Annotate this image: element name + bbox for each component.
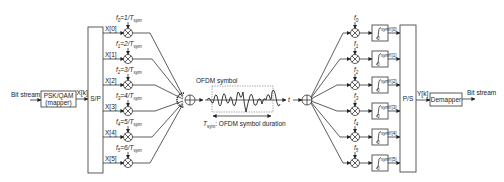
rx-split-icon [302,95,312,105]
rx-output-label: Y[3] [389,105,397,110]
duration-label: Tsym: OFDM symbol duration [203,120,286,129]
integrator-block: sym 0 [372,77,390,93]
multiplier-icon [351,107,360,116]
demapper-label: Demapper [431,96,462,104]
time-axis-label: t [288,96,291,103]
integrator-block: sym 0 [372,129,390,145]
svg-text:f0: f0 [354,14,359,23]
rx-output-label: Y[0] [389,27,397,32]
integrator-block: sym 0 [372,155,390,171]
tx-row-3: X[3] f3=4/Tsym [103,92,183,116]
ps-output-label: Y[k] [417,90,428,98]
svg-text:f1: f1 [354,40,359,49]
svg-text:f5=6/Tsym: f5=6/Tsym [116,144,142,153]
multiplier-icon [124,81,133,90]
svg-text:f1=2/Tsym: f1=2/Tsym [116,40,142,49]
ps-label: P/S [403,95,414,102]
svg-text:f4=5/Tsym: f4=5/Tsym [116,118,142,127]
mapper-output-label: X[k] [77,89,88,97]
mapper-block: PSK/QAM (mapper) [41,91,76,107]
mapper-label-2: (mapper) [45,99,71,107]
rx-output-label: Y[1] [389,53,397,58]
rx-output-label: Y[4] [389,131,397,136]
rx-row-3: f3 sym 0 Y[3] [311,92,400,119]
svg-text:f2: f2 [354,66,359,75]
multiplier-icon [124,107,133,116]
svg-text:f5: f5 [354,144,359,153]
ofdm-symbol-label: OFDM symbol [196,77,238,85]
svg-text:f0=1/Tsym: f0=1/Tsym [116,14,142,23]
tx-input-label: X[0] [105,25,117,33]
multiplier-icon [124,55,133,64]
demapper-block: Demapper [430,93,462,106]
sp-block: S/P [88,27,103,173]
tx-summation-icon [177,93,195,107]
multiplier-icon [351,55,360,64]
multiplier-icon [351,159,360,168]
tx-input-label: X[5] [105,155,117,163]
tx-row-1: X[1] f1=2/Tsym [103,40,183,98]
sp-label: S/P [90,95,100,102]
multiplier-icon [351,81,360,90]
input-bitstream-label: Bit stream [11,91,40,98]
output-bitstream-label: Bit stream [467,89,496,96]
svg-text:f3=4/Tsym: f3=4/Tsym [116,92,142,101]
rx-output-label: Y[2] [389,79,397,84]
multiplier-icon [124,133,133,142]
integrator-block: sym 0 [372,103,390,119]
tx-input-label: X[4] [105,129,117,137]
ofdm-block-diagram: Bit stream PSK/QAM (mapper) X[k] S/P X[0… [0,0,504,182]
integrator-block: sym 0 [372,25,390,41]
tx-input-label: X[3] [105,103,117,111]
multiplier-icon [351,133,360,142]
ps-block: P/S [400,25,416,172]
ofdm-waveform [207,90,280,112]
svg-text:f4: f4 [354,118,359,127]
multiplier-icon [351,29,360,38]
tx-input-label: X[1] [105,51,117,59]
multiplier-icon [124,29,133,38]
multiplier-icon [124,159,133,168]
tx-input-label: X[2] [105,77,117,85]
svg-text:f2=3/Tsym: f2=3/Tsym [116,66,142,75]
rx-output-label: Y[5] [389,157,397,162]
svg-text:f3: f3 [354,92,359,101]
integrator-block: sym 0 [372,51,390,67]
